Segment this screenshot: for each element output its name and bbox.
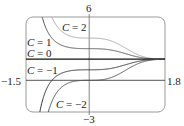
c-value: = 0 [34, 47, 51, 59]
curve-label-cm2: C = −2 [56, 99, 87, 110]
plot-area [0, 0, 184, 126]
x-min-tick-label: −1.5 [1, 76, 21, 87]
c-value: = 2 [69, 21, 86, 33]
curve-label-cm1: C = −1 [27, 65, 58, 76]
y-max-tick-label: 6 [86, 3, 92, 14]
c-value: = −1 [34, 64, 57, 76]
curve-label-c2: C = 2 [62, 22, 87, 33]
x-max-tick-label: 1.8 [167, 76, 181, 87]
c-value: = −2 [63, 98, 86, 110]
y-min-tick-label: −3 [83, 114, 95, 125]
curve-label-c0: C = 0 [27, 48, 52, 59]
